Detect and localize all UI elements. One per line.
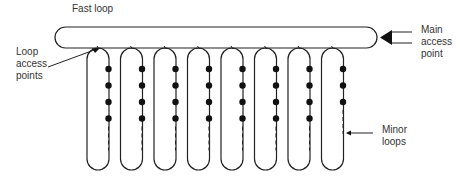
minor-loop — [322, 46, 347, 170]
data-bit-dot — [273, 99, 279, 105]
minor-loops-pointer-icon — [346, 131, 373, 136]
data-bit-dot — [172, 99, 178, 105]
minor-loop — [221, 46, 246, 170]
data-bit-dot — [340, 82, 346, 88]
data-bit-dot — [340, 99, 346, 105]
minor-loop — [255, 46, 280, 170]
data-bit-dot — [105, 66, 111, 72]
data-bit-dot — [206, 66, 212, 72]
data-bit-dot — [105, 99, 111, 105]
data-bit-dot — [172, 115, 178, 121]
data-bit-dot — [206, 115, 212, 121]
data-bit-dot — [172, 82, 178, 88]
data-bit-dot — [306, 66, 312, 72]
data-bit-dot — [172, 66, 178, 72]
data-bit-dot — [206, 99, 212, 105]
data-bit-dot — [306, 99, 312, 105]
data-bit-dot — [239, 115, 245, 121]
minor-loops — [87, 46, 346, 170]
minor-loop — [154, 46, 179, 170]
data-bit-dot — [206, 82, 212, 88]
data-bit-dot — [105, 82, 111, 88]
main-access-arrow-icon — [380, 30, 412, 45]
data-bit-dot — [139, 66, 145, 72]
minor-loop — [288, 46, 313, 170]
data-bit-dot — [139, 82, 145, 88]
data-bit-dot — [273, 66, 279, 72]
data-bit-dot — [273, 82, 279, 88]
data-bit-dot — [239, 99, 245, 105]
data-bit-dot — [239, 82, 245, 88]
data-bit-dot — [139, 99, 145, 105]
fast-loop — [55, 27, 377, 48]
data-bit-dot — [340, 66, 346, 72]
data-bit-dot — [239, 66, 245, 72]
data-bit-dot — [273, 115, 279, 121]
data-bit-dot — [306, 115, 312, 121]
data-bit-dot — [306, 82, 312, 88]
data-bit-dot — [139, 115, 145, 121]
loop-diagram — [0, 0, 460, 179]
data-bit-dot — [105, 115, 111, 121]
minor-loop — [121, 46, 146, 170]
minor-loop — [87, 46, 112, 170]
minor-loop — [188, 46, 213, 170]
loop-access-pointer-icon — [48, 48, 100, 67]
